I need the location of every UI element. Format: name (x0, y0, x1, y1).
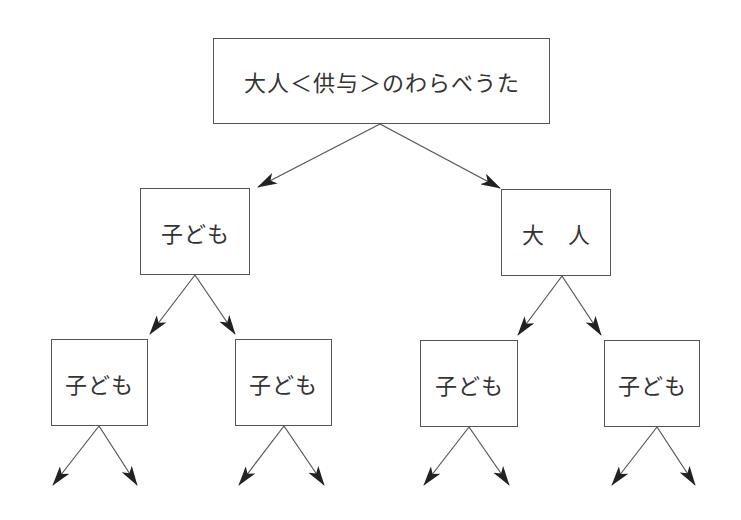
leaf-node: 子ども (604, 340, 700, 427)
edge (99, 426, 137, 485)
node-label: 子ども (65, 367, 134, 399)
node-label: 大 人 (522, 217, 591, 249)
edge (150, 275, 195, 334)
node-label: 子ども (618, 368, 687, 400)
edge (195, 275, 235, 334)
edge (612, 427, 657, 485)
node-label: 子ども (161, 216, 230, 248)
node-adults: 大 人 (501, 189, 611, 276)
edge (562, 276, 601, 335)
leaf-node: 子ども (51, 339, 148, 426)
edge (657, 427, 695, 485)
leaf-node: 子ども (235, 339, 332, 426)
leaf-node: 子ども (420, 340, 518, 427)
edge (53, 426, 99, 485)
edge (284, 426, 324, 485)
edge (424, 427, 469, 485)
edge (518, 276, 562, 335)
node-label: 子ども (249, 367, 318, 399)
node-label: 子ども (435, 368, 504, 400)
edge-root-to-adult (380, 124, 500, 188)
root-label: 大人＜供与＞のわらべうた (244, 65, 520, 97)
node-children: 子ども (140, 188, 250, 275)
edge (469, 427, 509, 485)
edge-root-to-child (258, 124, 380, 187)
edge (239, 426, 284, 485)
root-node: 大人＜供与＞のわらべうた (213, 38, 550, 124)
